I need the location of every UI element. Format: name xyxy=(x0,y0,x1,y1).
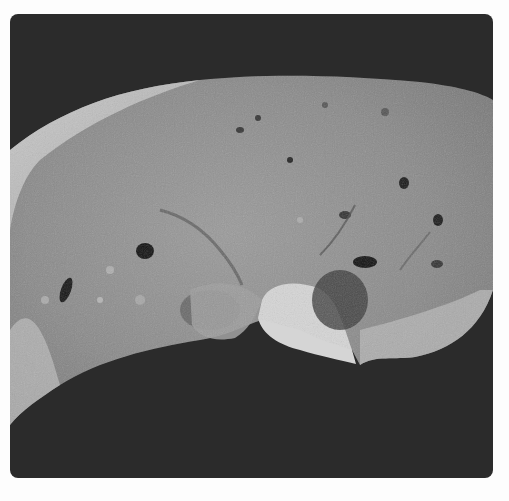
photo-frame xyxy=(10,14,493,478)
specimen-photo xyxy=(10,14,493,478)
